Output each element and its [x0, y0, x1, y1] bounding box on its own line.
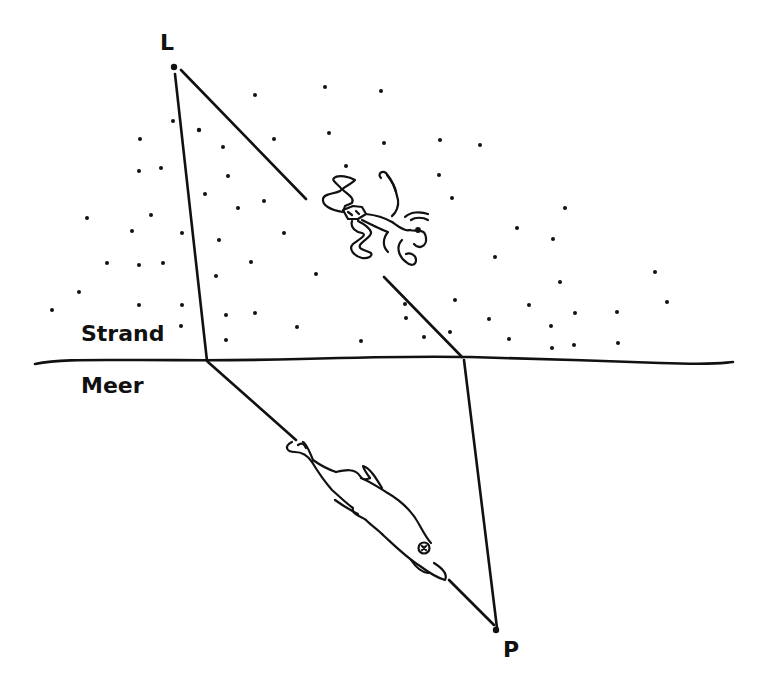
- dolphin-figure: [287, 442, 446, 580]
- direct-path-segment-2: [384, 277, 462, 357]
- point-L-dot: [171, 64, 177, 70]
- point-P-label: P: [503, 637, 519, 662]
- point-L-label: L: [160, 30, 174, 55]
- swim-path-segment-1: [208, 362, 296, 440]
- swim-path-segment-2: [449, 580, 494, 625]
- beach-run-path: [175, 74, 207, 361]
- sea-label: Meer: [81, 373, 144, 398]
- point-P-dot: [493, 627, 499, 633]
- beach-label: Strand: [81, 321, 164, 346]
- shoreline: [35, 357, 733, 364]
- running-person-figure: [323, 172, 428, 265]
- direct-path-water-segment: [464, 360, 497, 628]
- refraction-diagram: L P Strand Meer: [0, 0, 757, 688]
- direct-path-segment-1: [181, 70, 306, 199]
